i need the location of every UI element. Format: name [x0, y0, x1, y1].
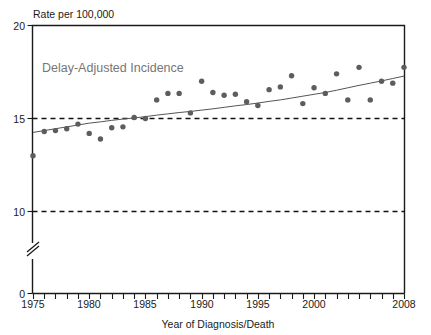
x-tick-label-1990: 1990 [190, 298, 214, 310]
data-point [154, 97, 159, 102]
x-tick-label-2008: 2008 [392, 298, 416, 310]
data-point [165, 91, 170, 96]
data-point [334, 71, 339, 76]
data-point [233, 92, 238, 97]
y-axis-title: Rate per 100,000 [33, 8, 114, 20]
chart-annotation-label: Delay-Adjusted Incidence [42, 61, 184, 75]
y-axis-tick-labels: 20 15 10 0 [13, 20, 25, 300]
chart-figure: 20 15 10 0 Rate per 100,000 1975 1980 19… [0, 0, 431, 335]
data-point [131, 115, 136, 120]
data-point [311, 85, 316, 90]
x-tick-label-1975: 1975 [21, 298, 45, 310]
data-point [401, 65, 406, 70]
data-point [30, 153, 35, 158]
data-point [120, 124, 125, 129]
x-axis-tick-labels: 1975 1980 1985 1990 1995 2000 2008 [21, 298, 416, 310]
y-axis-break-icon [27, 242, 39, 259]
x-tick-label-1995: 1995 [246, 298, 270, 310]
data-point [323, 91, 328, 96]
x-tick-label-2000: 2000 [302, 298, 326, 310]
data-point [109, 125, 114, 130]
data-point [98, 136, 103, 141]
data-point [368, 97, 373, 102]
data-point [87, 131, 92, 136]
data-point [143, 116, 148, 121]
data-point [176, 91, 181, 96]
trend-line [33, 76, 404, 132]
data-point [221, 93, 226, 98]
data-point [278, 84, 283, 89]
data-point [188, 110, 193, 115]
data-point [199, 79, 204, 84]
data-point [289, 73, 294, 78]
data-point [300, 101, 305, 106]
x-tick-label-1985: 1985 [133, 298, 157, 310]
data-point [244, 99, 249, 104]
y-tick-label-10: 10 [13, 206, 25, 218]
data-point [390, 80, 395, 85]
data-point [53, 128, 58, 133]
data-point [42, 129, 47, 134]
x-axis-title: Year of Diagnosis/Death [162, 318, 275, 330]
data-point-group [30, 65, 406, 159]
y-tick-label-20: 20 [13, 20, 25, 32]
data-point [266, 87, 271, 92]
data-point [75, 121, 80, 126]
data-point [379, 79, 384, 84]
x-tick-label-1980: 1980 [77, 298, 101, 310]
data-point [64, 126, 69, 131]
data-point [345, 97, 350, 102]
incidence-scatter-chart: 20 15 10 0 Rate per 100,000 1975 1980 19… [0, 0, 431, 335]
data-point [356, 65, 361, 70]
y-tick-label-15: 15 [13, 113, 25, 125]
data-point [210, 90, 215, 95]
data-point [255, 103, 260, 108]
